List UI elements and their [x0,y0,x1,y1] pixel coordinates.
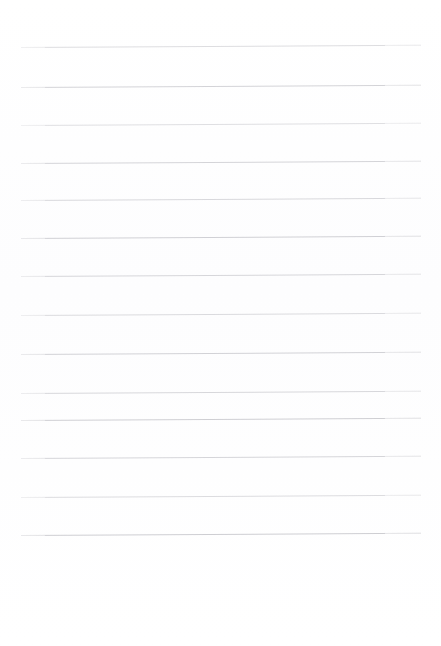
write-zone-7 [21,243,421,276]
write-zone-8 [21,282,421,315]
write-zone-5 [21,167,421,200]
write-zone-4 [21,130,421,163]
write-zone-12 [21,425,421,458]
write-zone-9 [21,321,421,354]
scanned-page [0,0,441,646]
write-zone-2 [21,54,421,87]
write-zone-11 [21,387,421,420]
write-zone-1 [21,14,421,47]
write-zone-3 [21,92,421,125]
write-zone-14 [21,502,421,535]
ruled-line-area [0,0,441,646]
write-zone-13 [21,464,421,497]
write-zone-6 [21,205,421,238]
